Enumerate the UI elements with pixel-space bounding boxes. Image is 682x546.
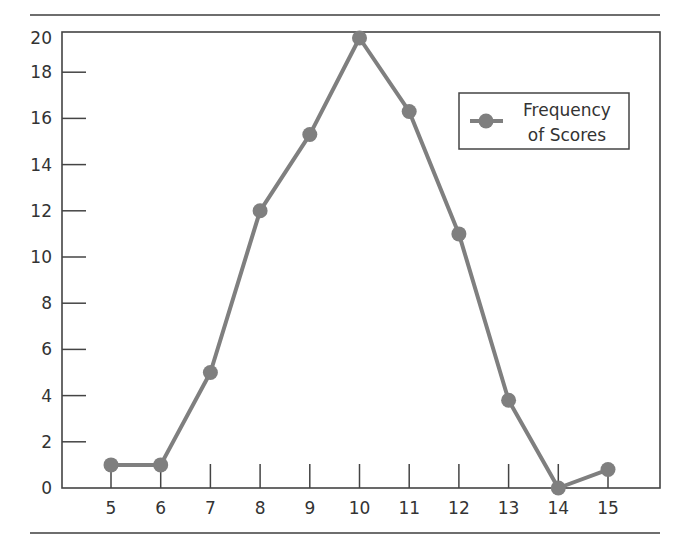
data-point [501, 393, 516, 408]
x-tick-label: 8 [255, 498, 266, 518]
y-tick-label: 8 [41, 293, 52, 313]
x-tick-label: 12 [448, 498, 470, 518]
legend-label-line2: of Scores [528, 125, 606, 145]
data-point [601, 462, 616, 477]
y-tick-label: 6 [41, 339, 52, 359]
x-tick-label: 10 [349, 498, 371, 518]
x-axis: 56789101112131415 [106, 464, 619, 518]
y-tick-label: 2 [41, 432, 52, 452]
x-tick-label: 6 [155, 498, 166, 518]
y-tick-label: 0 [41, 478, 52, 498]
legend-marker-icon [479, 114, 494, 129]
data-point [551, 481, 566, 496]
y-tick-label: 12 [30, 201, 52, 221]
y-tick-label: 4 [41, 386, 52, 406]
x-tick-label: 7 [205, 498, 216, 518]
data-point [302, 127, 317, 142]
legend: Frequencyof Scores [459, 93, 629, 149]
data-point [253, 203, 268, 218]
y-tick-label: 10 [30, 247, 52, 267]
y-tick-label: 14 [30, 155, 52, 175]
data-point [153, 457, 168, 472]
data-point [203, 365, 218, 380]
data-point [402, 104, 417, 119]
legend-label-line1: Frequency [523, 100, 611, 120]
line-chart: 02468101214161820 56789101112131415 Freq… [0, 0, 682, 546]
x-tick-label: 15 [597, 498, 619, 518]
y-tick-label: 20 [30, 28, 52, 48]
y-axis: 02468101214161820 [30, 28, 86, 498]
data-point [352, 31, 367, 46]
x-tick-label: 9 [304, 498, 315, 518]
x-tick-label: 5 [106, 498, 117, 518]
y-tick-label: 18 [30, 62, 52, 82]
data-point [451, 226, 466, 241]
x-tick-label: 14 [547, 498, 569, 518]
y-tick-label: 16 [30, 108, 52, 128]
data-point [104, 457, 119, 472]
x-tick-label: 11 [398, 498, 420, 518]
x-tick-label: 13 [498, 498, 520, 518]
